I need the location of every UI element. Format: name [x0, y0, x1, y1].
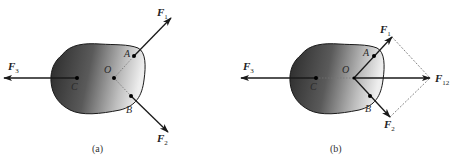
point-c-label: C	[310, 81, 317, 92]
point-o-dot	[112, 76, 116, 80]
point-b-label: B	[365, 103, 371, 114]
point-a-label: A	[362, 47, 370, 58]
point-b-dot	[129, 94, 133, 98]
force-f1-label: F1	[156, 6, 168, 21]
point-o-dot	[352, 76, 355, 79]
point-b-label: B	[126, 104, 132, 115]
point-c-label: C	[71, 81, 78, 92]
force-f1-label: F1	[379, 23, 391, 38]
panel-a-caption: (a)	[92, 143, 103, 155]
parallelogram-side-f1-f12	[392, 37, 430, 78]
force-f3-label: F3	[242, 60, 254, 75]
force-f2-label: F2	[156, 132, 168, 147]
point-c-dot	[314, 76, 318, 80]
force-diagram: C O A B F1 F2 F3 (a) C O A B F1 F2	[0, 0, 450, 165]
point-a-dot	[132, 54, 136, 58]
force-f2-arrow	[131, 96, 168, 132]
point-a-label: A	[123, 48, 131, 59]
point-o-label: O	[104, 64, 111, 75]
force-f1-arrow	[134, 18, 171, 56]
panel-b: C O A B F1 F2 F3 F12 (b)	[241, 23, 450, 155]
panel-a: C O A B F1 F2 F3 (a)	[4, 6, 171, 155]
point-b-dot	[368, 94, 372, 98]
point-c-dot	[75, 76, 79, 80]
panel-b-caption: (b)	[330, 143, 342, 155]
point-o-label: O	[342, 64, 349, 75]
point-a-dot	[372, 54, 376, 58]
parallelogram-side-f2-f12	[390, 78, 430, 117]
force-f3-label: F3	[7, 60, 19, 75]
force-f2-label: F2	[383, 118, 395, 133]
force-f12-label: F12	[434, 72, 450, 87]
